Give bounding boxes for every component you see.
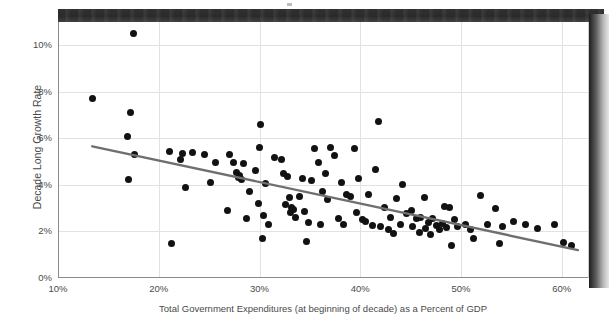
x-axis-title: Total Government Expenditures (at beginn… [58,303,588,314]
data-point [551,221,558,228]
data-point [454,223,461,230]
data-point [124,133,131,140]
data-point [207,179,214,186]
data-point [212,159,219,166]
data-point [260,212,267,219]
data-point [89,95,96,102]
data-point [353,209,360,216]
scan-shadow-band [58,9,604,22]
data-point [496,240,503,247]
y-tick-label: 0% [10,273,52,283]
data-point [448,242,455,249]
x-tick-label: 30% [237,283,283,294]
plot-right-rule [588,22,589,278]
data-point [226,151,233,158]
data-point [492,205,499,212]
data-point [292,214,299,221]
data-point [446,204,453,211]
data-point [324,196,331,203]
data-point [427,231,434,238]
data-point [252,167,259,174]
data-point [278,156,285,163]
data-point [365,191,372,198]
data-point [166,148,173,155]
y-axis-title: Decade Long Growth Rate [31,42,43,252]
data-point [317,221,324,228]
data-point [477,192,484,199]
data-point [259,235,266,242]
scan-speck [287,3,292,6]
plot-area [58,22,588,278]
data-point [467,226,474,233]
data-point [301,208,308,215]
data-point [375,118,382,125]
data-point [338,179,345,186]
data-point [319,188,326,195]
data-point [189,149,196,156]
data-point [390,230,397,237]
data-point [271,154,278,161]
x-tick-label: 40% [337,283,383,294]
data-point [417,214,424,221]
scatter-chart: 0%2%4%6%8%10% 10%20%30%40%50%60% Total G… [0,0,612,330]
data-point [127,109,134,116]
data-point [387,214,394,221]
data-point [362,218,369,225]
x-tick-label: 20% [136,283,182,294]
data-point [451,216,458,223]
data-point [240,160,247,167]
data-point [125,176,132,183]
data-point [381,204,388,211]
data-point [355,175,362,182]
data-point [351,145,358,152]
data-point [369,222,376,229]
data-point [331,152,338,159]
data-point [327,144,334,151]
data-point [286,194,293,201]
page-edge-shadow [589,14,609,288]
data-point [130,30,137,37]
data-point [347,193,354,200]
x-tick-label: 10% [35,283,81,294]
data-point [499,223,506,230]
data-point [408,207,415,214]
data-point [322,170,329,177]
data-point [470,235,477,242]
data-point [255,200,262,207]
data-point [182,184,189,191]
data-point [340,221,347,228]
data-point [484,221,491,228]
data-point [397,221,404,228]
data-point [315,159,322,166]
data-point [201,151,208,158]
x-tick-label: 60% [539,283,585,294]
data-point [372,166,379,173]
x-tick-label: 50% [438,283,484,294]
data-point [393,195,400,202]
data-point [246,188,253,195]
data-point [224,207,231,214]
